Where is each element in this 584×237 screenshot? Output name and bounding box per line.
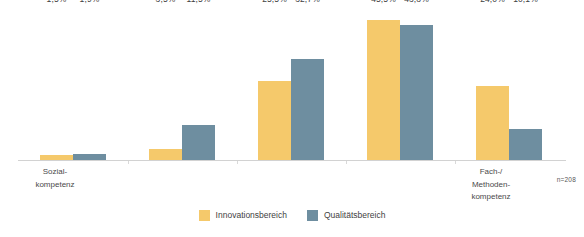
bar-value-2-innovationsbereich: 3,5% — [156, 0, 176, 3]
bar-group-1: 1,5% 1,9% — [36, 6, 110, 160]
axis-tick-2 — [237, 161, 238, 164]
category-label-line-2: Methoden- — [454, 179, 528, 192]
plot-area: 1,5% 1,9% 3,5% 11,5% 25,5% — [18, 6, 566, 161]
bar-slot-5-qualitaetsbereich: 10,1% — [509, 6, 542, 160]
bar-value-4-qualitaetsbereich: 43,8% — [404, 0, 429, 3]
bar-value-1-innovationsbereich: 1,5% — [47, 0, 67, 3]
category-label-line-2: kompetenz — [18, 179, 92, 192]
category-label-fach-methodenkompetenz: Fach-/ Methoden- kompetenz — [454, 166, 528, 204]
bar-value-5-innovationsbereich: 24,0% — [480, 0, 505, 3]
bar-slot-2-qualitaetsbereich: 11,5% — [182, 6, 215, 160]
bar-slot-5-innovationsbereich: 24,0% — [476, 6, 509, 160]
bar-3-qualitaetsbereich[interactable] — [291, 59, 324, 160]
bar-2-qualitaetsbereich[interactable] — [182, 125, 215, 160]
bar-4-qualitaetsbereich[interactable] — [400, 25, 433, 160]
legend-item-qualitaetsbereich[interactable]: Qualitätsbereich — [307, 210, 385, 221]
legend-item-innovationsbereich[interactable]: Innovationsbereich — [199, 210, 287, 221]
legend-label-qualitaetsbereich: Qualitätsbereich — [324, 211, 385, 220]
sample-size-note: n=208 — [557, 176, 576, 183]
grouped-bar-chart: 1,5% 1,9% 3,5% 11,5% 25,5% — [0, 0, 584, 237]
chart-legend: Innovationsbereich Qualitätsbereich — [0, 210, 584, 221]
bar-5-innovationsbereich[interactable] — [476, 86, 509, 160]
bar-group-3: 25,5% 32,7% — [254, 6, 328, 160]
axis-tick-3 — [346, 161, 347, 164]
axis-tick-1 — [128, 161, 129, 164]
bar-group-4: 45,5% 43,8% — [363, 6, 437, 160]
bar-value-3-qualitaetsbereich: 32,7% — [295, 0, 320, 3]
bar-slot-3-qualitaetsbereich: 32,7% — [291, 6, 324, 160]
category-label-line-3: kompetenz — [454, 191, 528, 204]
bar-slot-4-qualitaetsbereich: 43,8% — [400, 6, 433, 160]
bar-slot-1-innovationsbereich: 1,5% — [40, 6, 73, 160]
bar-value-4-innovationsbereich: 45,5% — [371, 0, 396, 3]
bar-group-5: 24,0% 10,1% — [472, 6, 546, 160]
bar-1-qualitaetsbereich[interactable] — [73, 154, 106, 160]
bar-value-5-qualitaetsbereich: 10,1% — [513, 0, 538, 3]
bar-slot-4-innovationsbereich: 45,5% — [367, 6, 400, 160]
bar-value-2-qualitaetsbereich: 11,5% — [187, 0, 211, 3]
legend-swatch-icon-innovationsbereich — [199, 210, 210, 221]
legend-swatch-icon-qualitaetsbereich — [307, 210, 318, 221]
bar-3-innovationsbereich[interactable] — [258, 81, 291, 160]
bar-slot-1-qualitaetsbereich: 1,9% — [73, 6, 106, 160]
bar-5-qualitaetsbereich[interactable] — [509, 129, 542, 160]
category-axis-line — [18, 160, 566, 161]
legend-label-innovationsbereich: Innovationsbereich — [216, 211, 287, 220]
bar-group-2: 3,5% 11,5% — [145, 6, 219, 160]
bar-slot-2-innovationsbereich: 3,5% — [149, 6, 182, 160]
bar-slot-3-innovationsbereich: 25,5% — [258, 6, 291, 160]
bar-2-innovationsbereich[interactable] — [149, 149, 182, 160]
bar-value-3-innovationsbereich: 25,5% — [262, 0, 287, 3]
bar-1-innovationsbereich[interactable] — [40, 155, 73, 160]
category-label-line-1: Sozial- — [18, 166, 92, 179]
category-label-sozialkompetenz: Sozial- kompetenz — [18, 166, 92, 191]
bar-4-innovationsbereich[interactable] — [367, 20, 400, 160]
category-label-line-1: Fach-/ — [454, 166, 528, 179]
bar-value-1-qualitaetsbereich: 1,9% — [80, 0, 100, 3]
axis-tick-4 — [455, 161, 456, 164]
